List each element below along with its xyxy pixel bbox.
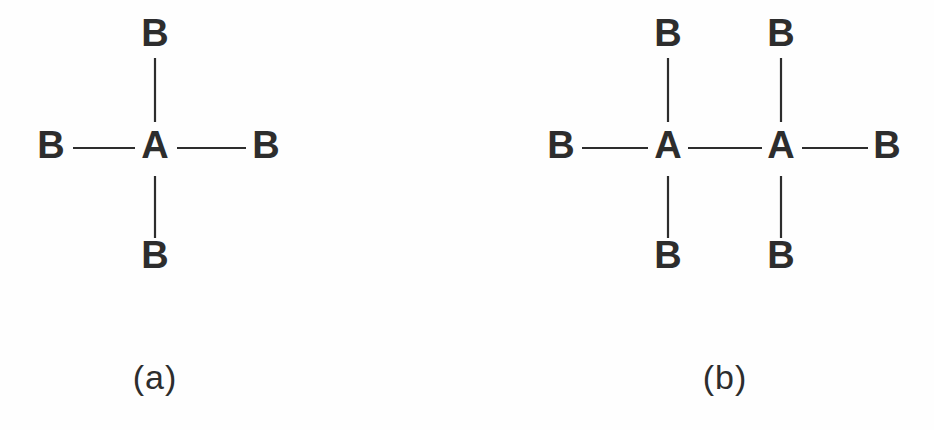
panel-caption-a: (a) xyxy=(133,358,178,396)
atom-label-a: A xyxy=(654,124,681,166)
atom-label-a: A xyxy=(141,124,168,166)
atom-label-b: B xyxy=(767,12,794,54)
atom-label-b: B xyxy=(767,234,794,276)
atom-label-b: B xyxy=(547,124,574,166)
atom-label-b: B xyxy=(654,234,681,276)
atom-label-b: B xyxy=(141,234,168,276)
diagram-canvas: ABBBB(a) AABBBBBB(b) xyxy=(0,0,934,430)
atom-label-b: B xyxy=(654,12,681,54)
panel-caption-b: (b) xyxy=(703,358,748,396)
atom-label-b: B xyxy=(873,124,900,166)
atom-label-b: B xyxy=(141,12,168,54)
panel-b: AABBBBBB(b) xyxy=(547,12,900,396)
structure-diagram-figure: ABBBB(a) AABBBBBB(b) xyxy=(0,0,934,430)
atom-label-b: B xyxy=(37,124,64,166)
panel-a: ABBBB(a) xyxy=(37,12,279,396)
atom-label-a: A xyxy=(767,124,794,166)
atom-label-b: B xyxy=(252,124,279,166)
